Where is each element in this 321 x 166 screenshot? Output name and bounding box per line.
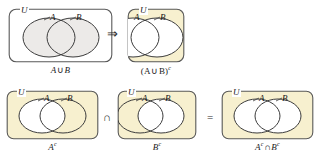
- caption-part-op: ∪: [56, 65, 64, 75]
- shaded-region-both-circles: [23, 18, 99, 57]
- caption-part-tail-sup: c: [277, 141, 280, 147]
- panel-caption-a-complement-intersect-b-complement: Ac∩Bc: [221, 141, 314, 152]
- panel-a-complement-intersect-b-complement: U A B Ac∩Bc: [221, 90, 314, 140]
- venn-box: U A B: [8, 8, 113, 63]
- caption-part-tail: B: [65, 65, 71, 75]
- set-label-a: A: [134, 12, 140, 22]
- panel-caption-a-complement: Ac: [6, 141, 99, 152]
- venn-box: U A B: [117, 90, 197, 140]
- caption-part-sup: c: [158, 141, 161, 147]
- arrow-icon: ⇒: [104, 27, 120, 40]
- intersection-operator: ∩: [100, 112, 114, 123]
- panel-a-complement: U A B Ac: [6, 90, 99, 140]
- shaded-region-outside-circles: [221, 90, 314, 140]
- universe-label: U: [17, 87, 26, 97]
- venn-box: U A B: [6, 90, 99, 140]
- universe-label: U: [232, 87, 241, 97]
- set-label-a: A: [44, 93, 50, 103]
- set-label-a: A: [50, 12, 56, 22]
- panel-a-union-b: U A B A∪B: [8, 8, 113, 63]
- shaded-region-outside-a: [6, 90, 99, 140]
- caption-part-main: (A: [141, 66, 151, 76]
- venn-svg-b-complement: [117, 90, 197, 140]
- set-label-a: A: [142, 93, 148, 103]
- caption-part-op: ∪: [151, 66, 159, 76]
- universe-label: U: [139, 5, 148, 15]
- universe-label: U: [20, 5, 29, 15]
- universe-label: U: [127, 87, 136, 97]
- set-label-b: B: [67, 93, 73, 103]
- panel-a-union-b-complement: U A B (A∪B)c: [127, 8, 185, 63]
- panel-caption-b-complement: Bc: [117, 141, 197, 152]
- panel-caption-a-union-b-complement: (A∪B)c: [117, 65, 195, 76]
- caption-part-sup: c: [54, 141, 57, 147]
- venn-box: U A B: [127, 8, 185, 63]
- set-label-b: B: [165, 93, 171, 103]
- venn-svg-a-complement: [6, 90, 99, 140]
- caption-part-tail: B): [159, 66, 168, 76]
- caption-part-sup: c: [168, 65, 171, 71]
- panel-b-complement: U A B Bc: [117, 90, 197, 140]
- venn-svg-a-complement-intersect-b-complement: [221, 90, 314, 140]
- venn-box: U A B: [221, 90, 314, 140]
- venn-diagram-figure: U A B A∪B ⇒: [0, 0, 321, 166]
- set-label-b: B: [160, 12, 166, 22]
- equals-operator: =: [203, 112, 217, 123]
- set-label-b: B: [76, 12, 82, 22]
- panel-caption-a-union-b: A∪B: [8, 65, 113, 75]
- set-label-b: B: [282, 93, 288, 103]
- venn-svg-a-union-b: [8, 8, 113, 63]
- set-label-a: A: [259, 93, 265, 103]
